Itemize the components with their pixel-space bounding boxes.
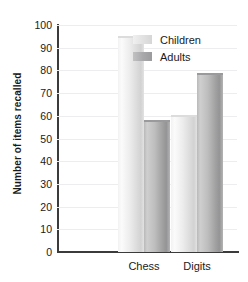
bar-digits-children (171, 115, 197, 252)
y-axis-title: Number of items recalled (12, 54, 23, 214)
y-tick-label: 0 (46, 246, 52, 258)
legend-item-adults: Adults (133, 49, 201, 64)
legend-label: Children (160, 34, 201, 46)
y-tick-label: 80 (40, 64, 52, 76)
y-tick-label: 60 (40, 110, 52, 122)
y-tick-label: 20 (40, 201, 52, 213)
legend-item-children: Children (133, 32, 201, 47)
y-tick-label: 30 (40, 178, 52, 190)
gridline (57, 25, 237, 26)
chart-legend: ChildrenAdults (133, 32, 201, 66)
adults-swatch (133, 52, 152, 61)
legend-label: Adults (160, 51, 191, 63)
x-axis-label-digits: Digits (183, 260, 211, 272)
y-tick-label: 90 (40, 42, 52, 54)
y-tick-label: 50 (40, 133, 52, 145)
y-tick-label: 10 (40, 223, 52, 235)
y-tick-label: 70 (40, 87, 52, 99)
bar-digits-adults (197, 73, 223, 252)
bar-chess-children (118, 36, 144, 252)
bar-cap (144, 120, 170, 122)
gridline (57, 70, 237, 71)
bar-cap (171, 115, 197, 117)
y-tick-label: 40 (40, 155, 52, 167)
bar-cap (197, 73, 223, 75)
x-axis-label-chess: Chess (128, 260, 159, 272)
bar-chess-adults (144, 120, 170, 252)
y-tick-label: 100 (34, 19, 52, 31)
children-swatch (133, 35, 152, 44)
bar-chart: Number of items recalled 010203040506070… (0, 0, 248, 282)
